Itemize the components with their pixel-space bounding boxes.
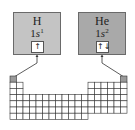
periodic-table-grid bbox=[10, 76, 127, 119]
periodic-table-diagram bbox=[0, 0, 135, 130]
hydrogen-pointer-line bbox=[14, 55, 37, 77]
helium-pointer-line bbox=[102, 55, 124, 77]
